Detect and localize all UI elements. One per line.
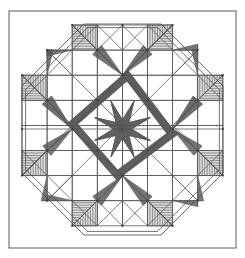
lattice-node xyxy=(96,200,98,202)
lattice-node xyxy=(146,99,148,101)
lattice-node xyxy=(121,24,123,26)
lattice-node xyxy=(121,74,123,76)
lattice-node xyxy=(146,200,148,202)
lattice-node xyxy=(21,175,23,177)
lattice-node xyxy=(146,49,148,51)
lattice-node xyxy=(96,99,98,101)
lattice-node xyxy=(71,128,73,130)
lattice-node xyxy=(71,225,73,227)
lattice-node xyxy=(197,200,199,202)
lattice-node xyxy=(197,99,199,101)
lattice-node xyxy=(172,225,174,227)
quilt-canvas xyxy=(0,0,245,258)
lattice-node xyxy=(222,74,224,76)
lattice-node xyxy=(121,128,123,130)
lattice-node xyxy=(197,149,199,151)
lattice-node xyxy=(46,149,48,151)
lattice-node xyxy=(96,49,98,51)
lattice-node xyxy=(146,149,148,151)
lattice-node xyxy=(222,175,224,177)
lattice-node xyxy=(222,128,224,130)
lattice-node xyxy=(96,149,98,151)
quilt-block-drawing xyxy=(0,0,245,258)
lattice-node xyxy=(46,49,48,51)
lattice-node xyxy=(172,128,174,130)
lattice-node xyxy=(197,49,199,51)
lattice-node xyxy=(21,128,23,130)
lattice-node xyxy=(46,200,48,202)
lattice-node xyxy=(121,225,123,227)
lattice-node xyxy=(71,24,73,26)
lattice-node xyxy=(172,24,174,26)
lattice-node xyxy=(21,74,23,76)
lattice-node xyxy=(121,175,123,177)
lattice-node xyxy=(46,99,48,101)
